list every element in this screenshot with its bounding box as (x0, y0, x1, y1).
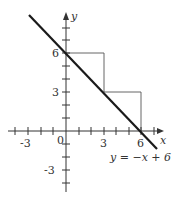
y-axis-arrow-icon (63, 12, 69, 20)
y-tick-label-6: 6 (52, 47, 59, 60)
origin-label: 0 (57, 134, 64, 147)
line-y-equals-neg-x-plus-6 (29, 15, 157, 149)
y-axis-label: y (70, 10, 78, 23)
coordinate-graph: y x 0 -3 3 6 6 3 -3 y = −x + 6 (0, 0, 174, 200)
y-tick-label-3: 3 (52, 86, 59, 99)
y-tick-label-neg3: -3 (44, 164, 55, 177)
x-axis-label: x (160, 134, 167, 147)
x-tick-label-3: 3 (100, 137, 107, 150)
x-tick-label-neg3: -3 (20, 137, 31, 150)
line-equation-label: y = −x + 6 (109, 151, 171, 164)
x-tick-label-6: 6 (137, 137, 144, 150)
